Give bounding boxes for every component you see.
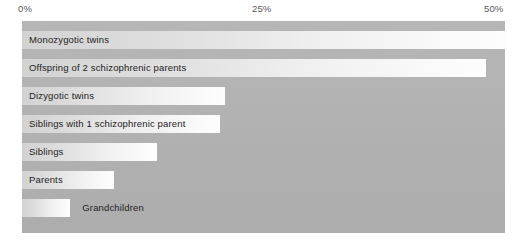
bar-row: Offspring of 2 schizophrenic parents	[22, 59, 505, 77]
bar-row: Monozygotic twins	[22, 31, 505, 49]
bar-label: Siblings with 1 schizophrenic parent	[29, 115, 185, 133]
bar-label: Offspring of 2 schizophrenic parents	[29, 59, 186, 77]
bar-row: Siblings	[22, 143, 505, 161]
bar-row: Grandchildren	[22, 199, 505, 217]
bar-label: Dizygotic twins	[29, 87, 94, 105]
x-axis: 0% 25% 50%	[0, 0, 527, 21]
plot-panel: Monozygotic twinsOffspring of 2 schizoph…	[22, 21, 505, 233]
axis-tick-0: 0%	[18, 3, 32, 14]
axis-tick-50: 50%	[484, 3, 503, 14]
bar-label: Siblings	[29, 143, 63, 161]
axis-tick-25: 25%	[252, 3, 271, 14]
bar-row: Dizygotic twins	[22, 87, 505, 105]
bar-label: Parents	[29, 171, 63, 189]
horizontal-bar-chart: 0% 25% 50% Monozygotic twinsOffspring of…	[0, 0, 527, 245]
bar-label: Monozygotic twins	[29, 31, 109, 49]
bar-row: Siblings with 1 schizophrenic parent	[22, 115, 505, 133]
bar	[22, 199, 70, 217]
bar-rows: Monozygotic twinsOffspring of 2 schizoph…	[22, 21, 505, 233]
bar-row: Parents	[22, 171, 505, 189]
bar-label: Grandchildren	[82, 199, 144, 217]
